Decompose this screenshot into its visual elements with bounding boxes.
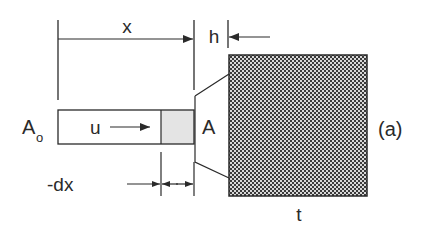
tube: u: [58, 110, 194, 144]
shaded-element-dx: [161, 110, 194, 144]
t-label: t: [296, 204, 302, 225]
x-dimension: x: [58, 16, 194, 100]
panel-label: (a): [378, 118, 402, 140]
a0-main: A: [22, 116, 36, 138]
dx-label: -dx: [47, 174, 74, 195]
a0-subscript: o: [36, 130, 43, 145]
x-label: x: [122, 16, 132, 37]
a0-label: A o: [22, 116, 43, 145]
u-label: u: [90, 117, 101, 138]
a-label: A: [202, 116, 216, 138]
h-dimension: h: [209, 20, 270, 48]
dx-dimension: -dx: [47, 152, 194, 196]
h-label: h: [209, 26, 220, 47]
hatched-target-block: [229, 55, 367, 196]
nozzle: A: [195, 74, 229, 178]
diagram-canvas: x h u A o A (a) t -dx: [0, 0, 430, 232]
